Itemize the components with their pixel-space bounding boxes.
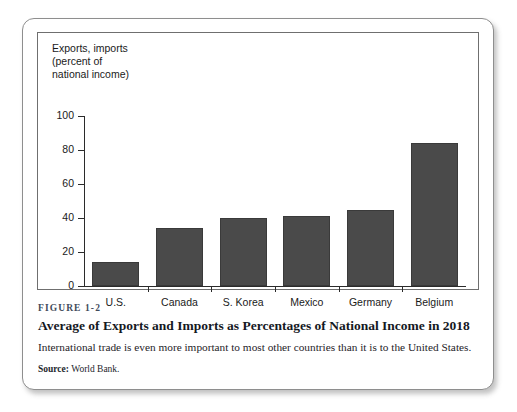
source-label: Source: [38,364,69,374]
figure-card: Exports, imports (percent of national in… [22,18,494,390]
y-tick-label: 0 [68,279,74,291]
figure-number: FIGURE 1-2 [38,303,478,313]
figure-description: International trade is even more importa… [38,340,478,355]
y-tick-label: 20 [62,245,74,257]
bar-mexico [283,216,330,286]
bar-belgium [411,143,458,286]
chart-bars [84,116,466,286]
figure-source: Source: World Bank. [38,364,478,374]
source-text: World Bank. [71,364,119,374]
x-tick [339,286,340,292]
y-tick-label: 80 [62,143,74,155]
chart-plot-panel: Exports, imports (percent of national in… [37,32,479,290]
bar-s-korea [220,218,267,286]
x-tick [211,286,212,292]
figure-title: Average of Exports and Imports as Percen… [38,318,478,334]
x-tick [275,286,276,292]
bar-germany [347,210,394,287]
x-tick [148,286,149,292]
y-axis-title: Exports, imports (percent of national in… [52,42,129,81]
y-tick-label: 40 [62,211,74,223]
bar-canada [156,228,203,286]
y-tick-label: 100 [56,109,74,121]
figure-caption: FIGURE 1-2 Average of Exports and Import… [38,303,478,374]
bar-u-s [92,262,139,286]
y-tick-label: 60 [62,177,74,189]
x-tick [402,286,403,292]
y-tick: 0 [78,286,85,287]
